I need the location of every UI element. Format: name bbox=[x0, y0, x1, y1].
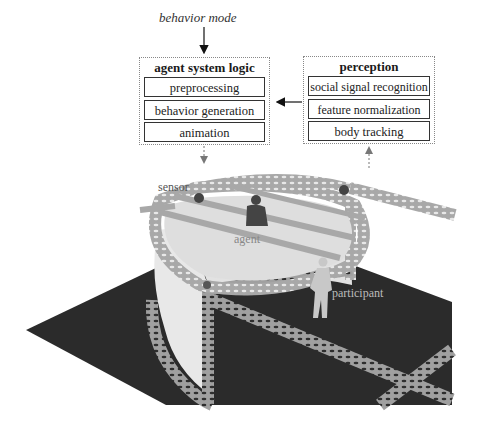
sensor-label: sensor bbox=[158, 180, 189, 195]
sensor-right bbox=[339, 185, 349, 195]
sensor-left bbox=[194, 193, 204, 203]
participant-label: participant bbox=[332, 286, 383, 301]
module-preprocessing: preprocessing bbox=[144, 77, 265, 97]
agent-label: agent bbox=[234, 232, 260, 247]
module-animation: animation bbox=[144, 122, 265, 142]
agent-system-logic-box: agent system logic preprocessing behavio… bbox=[139, 57, 270, 145]
module-behavior-generation: behavior generation bbox=[144, 100, 265, 120]
perception-title: perception bbox=[304, 59, 434, 75]
behavior-mode-label: behavior mode bbox=[159, 10, 237, 26]
perception-box: perception social signal recognition fea… bbox=[303, 56, 435, 144]
module-feature-normalization: feature normalization bbox=[308, 99, 430, 119]
module-body-tracking: body tracking bbox=[308, 121, 430, 141]
agent-system-logic-title: agent system logic bbox=[140, 60, 269, 76]
module-social-signal-recognition: social signal recognition bbox=[308, 76, 430, 96]
